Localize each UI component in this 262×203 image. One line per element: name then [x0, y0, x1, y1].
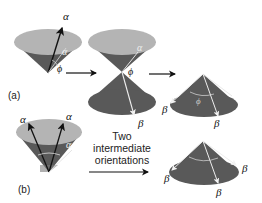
- panel-a-label: (a): [8, 90, 20, 101]
- beta-right-label: β: [241, 162, 248, 174]
- panel-b-label: (b): [18, 184, 30, 195]
- cone-orientation-diagram: α α ϕ α ϕ β ϕ β β: [0, 0, 262, 203]
- beta-bottom-label: β: [213, 117, 220, 129]
- beta-label: β: [137, 117, 144, 129]
- alpha-left-label: α: [20, 113, 26, 125]
- alpha-angle-label: α: [66, 139, 72, 150]
- panel-a: α α ϕ α ϕ β ϕ β β: [8, 10, 238, 129]
- phi-label: ϕ: [128, 66, 133, 77]
- transition-line-2: intermediate: [93, 142, 151, 154]
- beta-left-label: β: [163, 172, 170, 184]
- cone-a1: α α ϕ: [14, 10, 82, 74]
- alpha-label: α: [137, 42, 143, 53]
- transition-line-1: Two: [112, 130, 131, 142]
- phi-label: ϕ: [196, 96, 201, 106]
- transition-line-3: orientations: [95, 154, 149, 166]
- cone-b2: β β β: [163, 141, 248, 198]
- cone-b1: α α α: [16, 110, 82, 172]
- alpha-right-label: α: [66, 110, 72, 122]
- beta-left-label: β: [161, 103, 168, 115]
- cone-a3: ϕ β β: [161, 74, 238, 129]
- cone-a2: α ϕ β: [88, 29, 156, 129]
- phi-label: ϕ: [57, 63, 62, 74]
- alpha-angle-label: α: [62, 46, 68, 57]
- beta-bottom-label: β: [215, 186, 222, 198]
- alpha-label: α: [63, 10, 69, 22]
- transition-label: Two intermediate orientations: [93, 130, 151, 166]
